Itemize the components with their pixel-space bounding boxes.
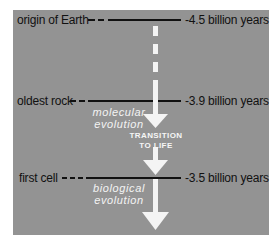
age-label-first-cell: -3.5 billion years xyxy=(185,172,269,184)
phase-label-line: evolution xyxy=(84,118,154,130)
phase-label-biological-evolution: biological evolution xyxy=(84,182,154,206)
phase-label-line: evolution xyxy=(84,194,154,206)
transition-label-line: TRANSITION xyxy=(120,131,192,141)
dashed-arrow-shaft xyxy=(153,26,158,96)
transition-label-line: TO LIFE xyxy=(120,141,192,151)
event-label-oldest-rock: oldest rock xyxy=(17,95,73,107)
arrow-transition-to-life xyxy=(143,147,168,175)
age-label-oldest-rock: -3.9 billion years xyxy=(185,95,269,107)
event-label-origin-of-earth: origin of Earth xyxy=(17,14,89,26)
age-label-origin-of-earth: -4.5 billion years xyxy=(185,14,269,26)
phase-label-line: biological xyxy=(84,182,154,194)
transition-to-life-label: TRANSITION TO LIFE xyxy=(120,131,192,151)
event-label-first-cell: first cell xyxy=(19,172,58,184)
phase-label-molecular-evolution: molecular evolution xyxy=(84,106,154,130)
phase-label-line: molecular xyxy=(84,106,154,118)
